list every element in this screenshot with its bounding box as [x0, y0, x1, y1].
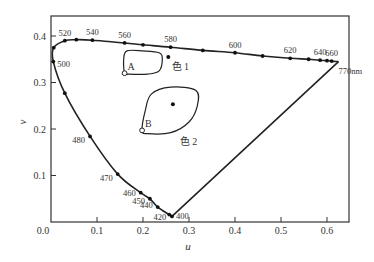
- corner-point-label: A: [128, 61, 136, 72]
- corner-point-label: B: [145, 118, 152, 129]
- wavelength-label: 540: [86, 27, 99, 37]
- wavelength-label: 660: [325, 48, 338, 58]
- wavelength-point: [88, 135, 92, 139]
- region-name-label: 色 2: [180, 135, 198, 147]
- wavelength-label: 500: [57, 59, 70, 69]
- wavelength-point: [116, 172, 120, 176]
- wavelength-point: [167, 213, 171, 217]
- y-tick-label: 0.1: [34, 170, 47, 181]
- y-tick-label: 0.2: [34, 124, 47, 135]
- y-tick-label: 0.3: [34, 77, 47, 88]
- wavelength-point: [148, 197, 152, 201]
- wavelength-point: [139, 191, 143, 195]
- wavelength-point: [201, 49, 205, 53]
- wavelength-label: 420: [153, 212, 166, 222]
- x-tick-label: 0.2: [137, 225, 150, 236]
- wavelength-point: [52, 46, 56, 50]
- x-tick-label: 0.1: [91, 225, 104, 236]
- wavelength-point: [123, 41, 127, 45]
- region-name-label: 色 1: [172, 60, 190, 72]
- spectral-locus-line: [52, 40, 338, 217]
- wavelength-label: 460: [123, 188, 136, 198]
- wavelength-point: [63, 39, 67, 43]
- x-tick-label: 0.0: [37, 225, 50, 236]
- region-corner-point: [140, 128, 145, 133]
- wavelength-point: [233, 51, 237, 55]
- wavelength-label: 620: [284, 45, 297, 55]
- wavelength-point: [307, 57, 311, 61]
- wavelength-point: [141, 43, 145, 47]
- wavelength-point: [288, 56, 292, 60]
- wavelength-point: [330, 59, 334, 63]
- wavelength-label: 580: [164, 34, 177, 44]
- wavelength-point: [169, 45, 173, 49]
- wavelength-label: 770nm: [339, 66, 363, 76]
- wavelength-point: [156, 205, 160, 209]
- wavelength-point: [318, 58, 322, 62]
- region-corner-point: [122, 71, 127, 76]
- wavelength-point: [91, 38, 95, 42]
- wavelength-point: [51, 60, 55, 64]
- wavelength-label: 400: [176, 211, 189, 221]
- wavelength-label: 470: [100, 173, 113, 183]
- region-center-point: [171, 102, 175, 106]
- wavelength-label: 560: [118, 30, 131, 40]
- wavelength-point: [325, 59, 329, 63]
- wavelength-point: [74, 38, 78, 42]
- wavelength-label: 480: [72, 135, 85, 145]
- region-center-point: [166, 55, 170, 59]
- x-tick-label: 0.3: [183, 225, 196, 236]
- cie-uv-chromaticity-chart: 0.00.10.20.30.40.50.60.10.20.30.4 400420…: [0, 0, 374, 262]
- x-tick-label: 0.4: [229, 225, 242, 236]
- x-axis-label: u: [185, 240, 191, 252]
- x-tick-label: 0.6: [321, 225, 334, 236]
- wavelength-label: 600: [229, 40, 242, 50]
- wavelength-point: [261, 54, 265, 58]
- wavelength-point: [63, 91, 67, 95]
- x-tick-label: 0.5: [275, 225, 288, 236]
- wavelength-label: 520: [58, 28, 71, 38]
- y-axis-label: v: [16, 119, 28, 124]
- y-tick-label: 0.4: [34, 31, 47, 42]
